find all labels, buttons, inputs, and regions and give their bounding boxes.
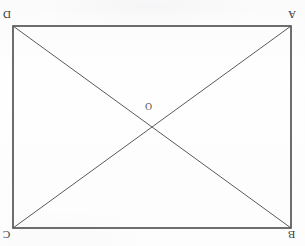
figure-canvas: D A C B O	[0, 0, 305, 246]
vertex-label-d: D	[3, 9, 11, 20]
geometry-diagram	[0, 0, 305, 246]
center-point-label-o: O	[145, 100, 152, 110]
vertex-label-b: B	[288, 229, 295, 240]
vertex-label-c: C	[3, 229, 10, 240]
vertex-label-a: A	[288, 9, 296, 20]
